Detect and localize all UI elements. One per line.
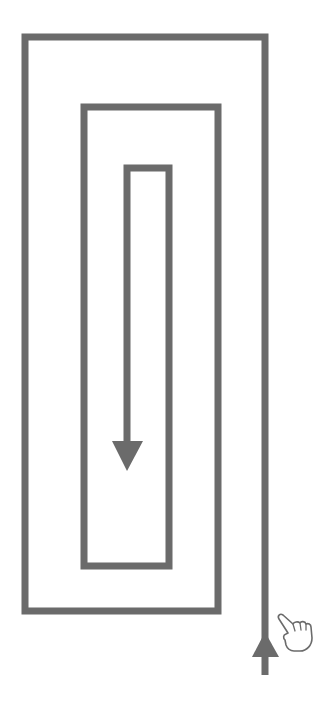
spiral-diagram [0,0,318,706]
pointing-hand-icon [278,614,312,651]
arrow-down-icon [112,441,143,471]
spiral-path [25,37,265,675]
arrow-up-icon [252,632,279,657]
